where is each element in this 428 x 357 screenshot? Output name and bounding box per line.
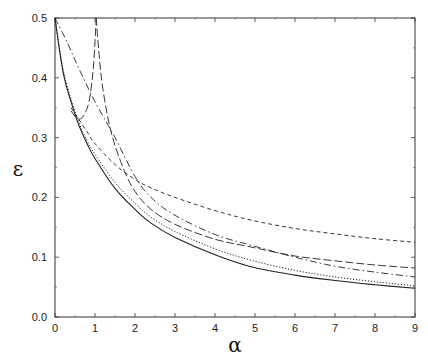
y-tick-label: 0.3	[32, 132, 47, 144]
series-dotted	[55, 18, 415, 286]
y-tick-label: 0.4	[32, 72, 47, 84]
x-axis-label: α	[228, 333, 242, 357]
y-axis-label: ε	[13, 157, 23, 181]
x-tick-label: 8	[372, 322, 378, 334]
x-tick-label: 9	[412, 322, 418, 334]
x-tick-label: 2	[132, 322, 138, 334]
x-tick-label: 6	[292, 322, 298, 334]
series-group	[55, 18, 415, 288]
series-long-dash-rising	[71, 18, 96, 119]
y-tick-label: 0.0	[32, 311, 47, 323]
x-tick-label: 4	[212, 322, 218, 334]
plot-border	[55, 18, 415, 317]
plot-frame	[55, 18, 415, 317]
series-dash-dot	[55, 18, 415, 277]
series-long-dash-falling	[96, 18, 415, 268]
series-solid	[55, 18, 415, 288]
y-tick-label: 0.1	[32, 251, 47, 263]
x-tick-label: 1	[92, 322, 98, 334]
line-chart: 01234567890.00.10.20.30.40.5 α ε	[0, 0, 428, 357]
x-tick-label: 3	[172, 322, 178, 334]
axis-ticks: 01234567890.00.10.20.30.40.5	[32, 12, 418, 334]
x-tick-label: 0	[52, 322, 58, 334]
x-tick-label: 7	[332, 322, 338, 334]
x-tick-label: 5	[252, 322, 258, 334]
y-tick-label: 0.2	[32, 191, 47, 203]
series-short-dash	[71, 108, 415, 243]
y-tick-label: 0.5	[32, 12, 47, 24]
